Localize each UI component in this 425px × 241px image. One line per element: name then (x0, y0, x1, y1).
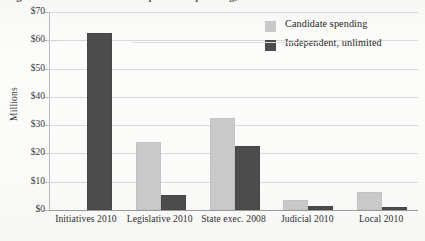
bar-candidate (283, 200, 308, 210)
y-axis-label: $10 (1, 176, 45, 186)
scan-artifact-tick-bottom (51, 182, 57, 183)
y-axis-label: $30 (1, 119, 45, 129)
figure-caption-text: Figure 3. Candidate and independent spen… (6, 0, 307, 2)
bar-candidate (357, 192, 382, 210)
bar-independent (235, 146, 260, 210)
legend-label-candidate: Candidate spending (285, 18, 367, 29)
y-axis-label: $50 (1, 63, 45, 73)
figure-caption-cutoff: Figure 3. Candidate and independent spen… (0, 0, 425, 7)
scan-artifact-rule (132, 42, 322, 43)
legend-swatch-candidate-icon (265, 21, 276, 32)
bar-chart: Millions $0$10$20$30$40$50$60$70 Initiat… (0, 7, 425, 241)
bar-candidate (210, 118, 235, 211)
x-axis-label: Local 2010 (333, 213, 425, 224)
y-axis-label: $60 (1, 34, 45, 44)
y-axis-line (49, 12, 50, 210)
y-axis-label: $70 (1, 6, 45, 16)
y-axis-label: $40 (1, 91, 45, 101)
bar-independent (382, 207, 407, 210)
y-axis-label: $20 (1, 147, 45, 157)
gridline-0 (49, 210, 418, 211)
x-axis-labels: Initiatives 2010Legislative 2010State ex… (49, 213, 418, 233)
gridline-70 (49, 12, 418, 13)
legend-item-independent: Independent, unlimited (265, 37, 417, 56)
bar-independent (161, 195, 186, 210)
scan-artifact-tick-top (51, 40, 57, 41)
bar-independent (308, 206, 333, 210)
legend-item-candidate: Candidate spending (265, 18, 417, 37)
bar-independent (87, 33, 112, 210)
legend: Candidate spending Independent, unlimite… (265, 18, 417, 56)
bar-candidate (136, 142, 161, 210)
